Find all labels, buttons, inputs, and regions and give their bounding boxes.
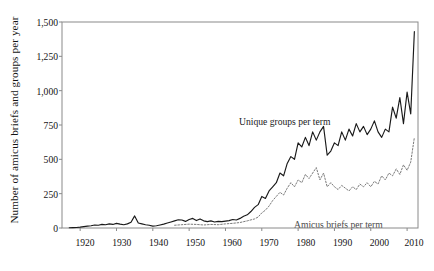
series-line-unique-groups	[69, 32, 414, 228]
chart-plot-area	[0, 0, 434, 271]
chart-figure: Number of amicus briefs and groups per y…	[0, 0, 434, 271]
plot-frame	[62, 22, 418, 228]
series-line-amicus-briefs	[175, 137, 415, 225]
